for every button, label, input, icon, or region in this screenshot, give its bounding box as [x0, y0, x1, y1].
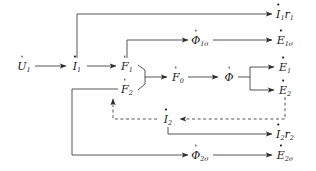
node-e1s: E1σ	[277, 35, 294, 46]
edge-f1-phi1s	[127, 40, 188, 58]
dot-accent-icon	[165, 109, 167, 111]
dot-accent-icon	[277, 124, 279, 126]
node-f1: F1	[121, 61, 133, 72]
dot-accent-icon	[282, 57, 284, 59]
node-phi-symbol: Φ	[224, 71, 233, 84]
node-phi2s: Φ2σ	[191, 150, 209, 161]
node-phi1s: Φ1σ	[191, 35, 209, 46]
node-i1r1-trailsub: 1	[290, 14, 294, 22]
edge-e2-i2	[180, 97, 285, 119]
node-i2r2: I2r2	[276, 129, 294, 140]
node-i2: I2	[164, 114, 173, 125]
dot-accent-icon	[124, 79, 126, 81]
node-u1-sub: 1	[27, 66, 31, 74]
node-e2: E2	[279, 85, 291, 96]
dot-accent-icon	[175, 67, 177, 69]
node-e2s-sub: 2σ	[285, 155, 294, 163]
edge-mmf-bracket-f0	[138, 65, 167, 90]
dot-accent-icon	[280, 30, 282, 32]
node-e1: E1	[279, 62, 291, 73]
node-i1-sub: 1	[77, 66, 81, 74]
dot-accent-icon	[74, 56, 76, 58]
node-i1r1-trail: r	[285, 8, 290, 21]
dot-accent-icon	[277, 4, 279, 6]
dot-accent-icon	[21, 56, 23, 58]
diagram-wires	[0, 0, 316, 171]
node-i2r2-trailsub: 2	[290, 134, 294, 142]
dot-accent-icon	[280, 145, 282, 147]
dot-accent-icon	[195, 30, 197, 32]
node-phi2s-sub: 2σ	[200, 155, 209, 163]
node-f1-sub: 1	[129, 66, 133, 74]
node-f2: F2	[121, 84, 133, 95]
node-e2-sub: 2	[287, 90, 291, 98]
node-phi: Φ	[224, 72, 233, 83]
edge-i2-f2	[113, 99, 157, 119]
diagram-canvas: U1 I1 F1 F2 F0 Φ E1 E2 Φ1σ E1σ I1r1 I2 I…	[0, 0, 316, 171]
node-e1-sub: 1	[287, 67, 291, 75]
node-i1r1-sub: 1	[280, 14, 284, 22]
node-i2r2-trail: r	[285, 128, 290, 141]
node-e1s-sub: 1σ	[285, 40, 294, 48]
edge-i1-i1r1	[77, 14, 272, 58]
node-i1r1: I1r1	[276, 9, 294, 20]
node-i2r2-sub: 2	[280, 134, 284, 142]
dot-accent-icon	[124, 56, 126, 58]
node-phi2s-symbol: Φ	[191, 149, 200, 162]
node-i1: I1	[73, 61, 82, 72]
node-f2-sub: 2	[129, 89, 133, 97]
node-i2-sub: 2	[168, 119, 172, 127]
dot-accent-icon	[195, 145, 197, 147]
node-e2s: E2σ	[277, 150, 294, 161]
node-phi1s-symbol: Φ	[191, 34, 200, 47]
dot-accent-icon	[282, 80, 284, 82]
node-phi1s-sub: 1σ	[200, 40, 209, 48]
node-f0-sub: 0	[180, 77, 184, 85]
edge-i2-i2r2	[168, 127, 272, 134]
node-u1: U1	[17, 61, 30, 72]
node-f0: F0	[172, 72, 184, 83]
dot-accent-icon	[228, 67, 230, 69]
edge-phi-e1e2	[238, 67, 274, 90]
